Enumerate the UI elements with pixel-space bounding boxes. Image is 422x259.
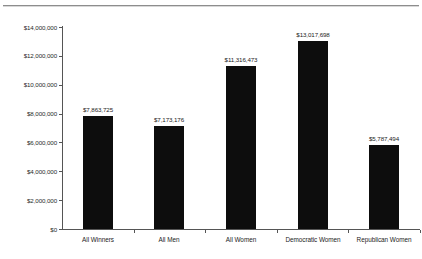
y-axis-tick-label: $14,000,000	[2, 24, 57, 31]
bar-value-label: $13,017,698	[273, 31, 353, 38]
y-axis-tick	[59, 114, 63, 115]
x-axis-tick	[134, 230, 135, 233]
bar-value-label: $7,863,725	[58, 106, 138, 113]
y-axis-tick-label: $2,000,000	[2, 197, 57, 204]
x-axis-tick	[205, 230, 206, 233]
y-axis-tick	[59, 200, 63, 201]
page-top-rule-shadow	[3, 6, 419, 7]
y-axis-tick-label: $10,000,000	[2, 81, 57, 88]
y-axis-tick	[59, 171, 63, 172]
y-axis-tick	[59, 229, 63, 230]
y-axis-tick-label-wrap: $2,000,000	[0, 197, 57, 204]
x-axis-category-label: Republican Women	[339, 236, 422, 244]
x-axis-tick	[348, 230, 349, 233]
y-axis-tick-label-wrap: $0	[0, 226, 57, 233]
y-axis-tick-label-wrap: $10,000,000	[0, 81, 57, 88]
bar	[298, 41, 328, 229]
y-axis-tick-label-wrap: $8,000,000	[0, 110, 57, 117]
bar-chart-figure: $0$2,000,000$4,000,000$6,000,000$8,000,0…	[0, 0, 422, 259]
bar-value-label: $5,787,494	[344, 135, 422, 142]
x-axis-tick	[420, 230, 421, 233]
y-axis-tick-label-wrap: $6,000,000	[0, 139, 57, 146]
bar	[83, 116, 113, 229]
y-axis-tick-label: $8,000,000	[2, 110, 57, 117]
y-axis-tick	[59, 56, 63, 57]
y-axis-tick-label-wrap: $14,000,000	[0, 24, 57, 31]
y-axis-tick	[59, 85, 63, 86]
x-axis-tick	[277, 230, 278, 233]
x-axis-line	[62, 229, 420, 230]
y-axis-tick-label: $4,000,000	[2, 168, 57, 175]
y-axis-tick	[59, 27, 63, 28]
bar-value-label: $11,316,473	[201, 56, 281, 63]
y-axis-tick-label-wrap: $4,000,000	[0, 168, 57, 175]
y-axis-tick-label: $0	[2, 226, 57, 233]
bar	[369, 145, 399, 229]
bar-value-label: $7,173,176	[129, 116, 209, 123]
bar	[226, 66, 256, 229]
y-axis-tick-label: $6,000,000	[2, 139, 57, 146]
y-axis-tick-label: $12,000,000	[2, 52, 57, 59]
bar	[154, 126, 184, 229]
y-axis-tick	[59, 142, 63, 143]
y-axis-tick-label-wrap: $12,000,000	[0, 52, 57, 59]
